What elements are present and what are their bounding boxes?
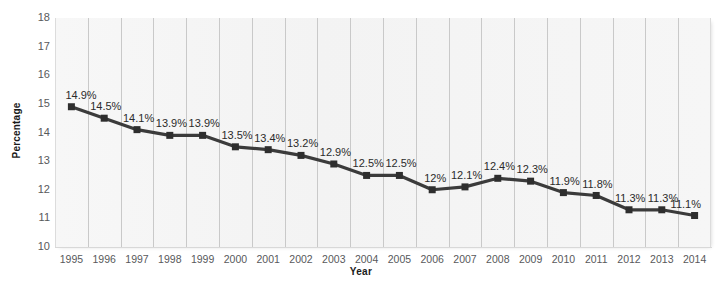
data-point-label: 13.9% <box>189 118 220 129</box>
data-point-label: 11.8% <box>582 179 612 190</box>
data-point-label: 14.5% <box>90 101 121 112</box>
data-point-label: 14.9% <box>65 90 96 101</box>
data-point-label: 12.5% <box>385 158 416 169</box>
x-axis-baseline <box>55 247 712 248</box>
data-point-marker <box>265 146 272 153</box>
data-point-label: 13.9% <box>156 118 187 129</box>
line-chart: Percentage 181716151413121110 14.9%14.5%… <box>0 0 722 286</box>
data-point-marker <box>560 189 567 196</box>
data-point-marker <box>396 172 403 179</box>
y-axis-tick-label: 11 <box>24 212 50 223</box>
data-point-marker <box>462 183 469 190</box>
y-axis-tick-label: 10 <box>24 241 50 252</box>
data-point-label: 12.5% <box>353 158 384 169</box>
x-axis-title: Year <box>0 266 722 277</box>
data-point-marker <box>593 192 600 199</box>
y-axis-tick-label: 15 <box>24 98 50 109</box>
data-point-label: 11.3% <box>615 193 645 204</box>
data-point-marker <box>232 143 239 150</box>
data-point-marker <box>330 160 337 167</box>
data-point-marker <box>658 206 665 213</box>
data-point-marker <box>134 126 141 133</box>
data-point-label: 12.3% <box>517 164 548 175</box>
y-axis-title: Percentage <box>11 86 22 176</box>
data-point-marker <box>101 115 108 122</box>
data-point-label: 12.4% <box>484 161 515 172</box>
y-axis-tick-label: 12 <box>24 184 50 195</box>
data-series-line <box>55 18 711 247</box>
data-point-label: 11.9% <box>549 176 579 187</box>
y-axis-tick-label: 17 <box>24 41 50 52</box>
data-point-marker <box>68 103 75 110</box>
data-point-label: 13.5% <box>221 130 252 141</box>
x-axis-tick-label: 2014 <box>675 254 715 265</box>
data-point-marker <box>166 132 173 139</box>
data-point-marker <box>298 152 305 159</box>
data-point-label: 13.2% <box>287 138 318 149</box>
y-axis-tick-label: 14 <box>24 127 50 138</box>
y-axis-tick-label: 13 <box>24 155 50 166</box>
data-point-label: 12% <box>424 173 446 184</box>
data-point-label: 13.4% <box>254 133 285 144</box>
data-point-marker <box>527 178 534 185</box>
data-point-marker <box>199 132 206 139</box>
data-point-label: 14.1% <box>123 113 154 124</box>
y-axis-tick-label: 18 <box>24 12 50 23</box>
y-axis-tick-label: 16 <box>24 69 50 80</box>
data-point-marker <box>691 212 698 219</box>
plot-area: 14.9%14.5%14.1%13.9%13.9%13.5%13.4%13.2%… <box>55 18 711 247</box>
data-point-label: 11.1% <box>671 199 701 210</box>
data-point-label: 12.1% <box>451 170 482 181</box>
data-point-marker <box>626 206 633 213</box>
data-point-label: 12.9% <box>320 147 351 158</box>
data-point-marker <box>429 186 436 193</box>
data-point-marker <box>363 172 370 179</box>
data-point-marker <box>494 175 501 182</box>
